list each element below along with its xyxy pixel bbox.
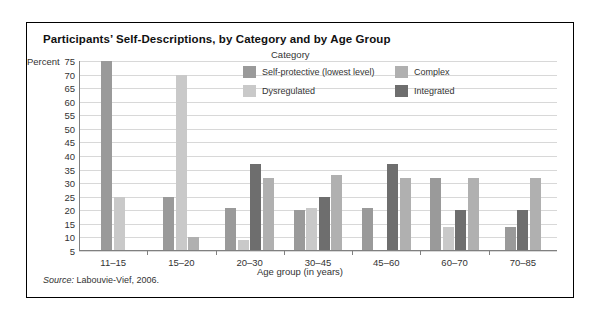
y-tick-label: 20 (49, 206, 75, 216)
x-tick-mark (216, 251, 217, 255)
legend-swatch-icon (243, 66, 256, 78)
legend-item-label: Complex (414, 67, 450, 77)
legend-item: Dysregulated (243, 85, 395, 97)
x-tick-mark (284, 251, 285, 255)
y-tick-label: 70 (49, 71, 75, 81)
gridline (79, 251, 557, 252)
page-title: Participants’ Self-Descriptions, by Cate… (43, 33, 391, 45)
y-tick-label: 65 (49, 84, 75, 94)
x-tick-mark (420, 251, 421, 255)
legend-item: Integrated (395, 85, 519, 97)
y-tick-label: 25 (49, 193, 75, 203)
legend-item-label: Dysregulated (262, 86, 315, 96)
y-tick-label: 35 (49, 166, 75, 176)
x-tick-mark (489, 251, 490, 255)
legend-item: Complex (395, 66, 519, 78)
y-tick-label: 30 (49, 179, 75, 189)
chart-legend: Category Self-protective (lowest level)C… (243, 49, 519, 97)
legend-swatch-icon (395, 85, 408, 97)
legend-swatch-icon (395, 66, 408, 78)
legend-title: Category (243, 49, 519, 60)
y-tick-label: 55 (49, 111, 75, 121)
legend-item: Self-protective (lowest level) (243, 66, 395, 78)
chart-figure: Participants’ Self-Descriptions, by Cate… (26, 22, 574, 298)
source-text: Labouvie-Vief, 2006. (77, 275, 159, 285)
legend-entries: Self-protective (lowest level)ComplexDys… (243, 66, 519, 97)
legend-swatch-icon (243, 85, 256, 97)
y-tick-label: 75 (49, 57, 75, 67)
y-tick-label: 45 (49, 138, 75, 148)
y-tick-label: 50 (49, 125, 75, 135)
source-label: Source: (43, 275, 74, 285)
x-tick-mark (147, 251, 148, 255)
y-tick-label: 10 (49, 233, 75, 243)
y-tick-label: 40 (49, 152, 75, 162)
legend-item-label: Integrated (414, 86, 455, 96)
x-tick-mark (352, 251, 353, 255)
source-note: Source: Labouvie-Vief, 2006. (43, 275, 159, 285)
y-tick-label: 5 (49, 247, 75, 257)
y-tick-label: 60 (49, 98, 75, 108)
legend-item-label: Self-protective (lowest level) (262, 67, 375, 77)
y-tick-label: 15 (49, 220, 75, 230)
